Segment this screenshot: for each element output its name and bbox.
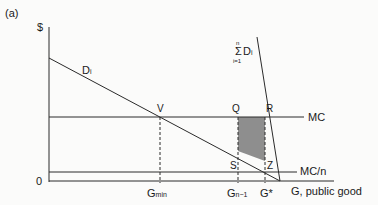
sum-bottom-index: i=1 <box>233 58 241 64</box>
g-n-1-text: G <box>227 187 236 199</box>
g-n-1-tick: Gn−1 <box>227 188 247 199</box>
g-min-tick: Gmin <box>147 188 167 199</box>
agg-demand-subscript: i <box>251 49 253 56</box>
demand-label-subscript: i <box>90 68 92 75</box>
shaded-welfare-area <box>238 117 265 161</box>
demand-label-text: D <box>82 64 90 76</box>
origin-label: 0 <box>36 176 42 187</box>
individual-demand-label: Di <box>82 65 92 76</box>
point-v-label: V <box>157 104 164 114</box>
g-n-1-subscript: n−1 <box>236 191 248 198</box>
point-z-label: Z <box>267 161 273 171</box>
x-axis-label: G, public good <box>291 186 362 197</box>
sum-symbol: Σ <box>235 46 242 57</box>
agg-demand-text: D <box>243 45 251 57</box>
g-min-subscript: min <box>156 191 167 198</box>
g-star-tick: G* <box>260 188 273 199</box>
y-axis-label: $ <box>37 22 43 33</box>
panel-label: (a) <box>5 8 18 19</box>
mc-n-label: MC/n <box>300 166 326 177</box>
aggregate-demand-label: Di <box>243 46 253 57</box>
g-min-text: G <box>147 187 156 199</box>
mc-label: MC <box>308 112 325 123</box>
point-s-label: S <box>230 161 237 171</box>
point-q-label: Q <box>232 104 240 114</box>
point-r-label: R <box>266 104 273 114</box>
